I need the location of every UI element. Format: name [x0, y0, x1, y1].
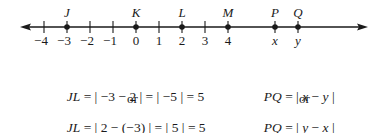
point-p-marker [272, 24, 278, 30]
eq-lhs: JL [67, 89, 81, 104]
point-q-marker [295, 24, 301, 30]
eq-part: − [308, 89, 322, 104]
variable-label: x [271, 33, 278, 48]
equation-pq-1: PQ = | x − y | [257, 76, 335, 103]
or-label-right: or [299, 92, 310, 105]
point-label-l: L [177, 5, 185, 20]
eq-rhs: = | −3 − 2 | = | −5 | = 5 [80, 89, 204, 104]
point-l-marker [179, 24, 185, 30]
point-labels: JKLMPQ [64, 5, 303, 20]
point-label-p: P [270, 5, 279, 20]
eq-rhs: = | 2 − (−3) | = | 5 | = 5 [80, 120, 205, 134]
eq-lhs: PQ [264, 89, 282, 104]
eq-part: = | [282, 120, 302, 134]
tick-label: −1 [103, 33, 117, 48]
tick-labels: −4−3−2−101234xy [34, 33, 301, 48]
point-label-j: J [64, 5, 71, 20]
tick-label: −4 [34, 33, 48, 48]
tick-label: 0 [133, 33, 140, 48]
variable-label: y [293, 33, 301, 48]
eq-part: − [308, 120, 322, 134]
point-label-m: M [222, 5, 235, 20]
tick-label: 3 [202, 33, 209, 48]
equation-pq-2: PQ = | y − x | [257, 107, 335, 133]
tick-label: 2 [179, 33, 186, 48]
point-label-k: K [131, 5, 142, 20]
point-k-marker [133, 24, 139, 30]
equation-jl-2: JL = | 2 − (−3) | = | 5 | = 5 [60, 107, 206, 133]
tick-label: −2 [80, 33, 94, 48]
point-label-q: Q [293, 5, 303, 20]
tick-label: 1 [156, 33, 163, 48]
or-label-left: or [127, 92, 138, 105]
point-m-marker [225, 24, 231, 30]
eq-lhs: PQ [264, 120, 282, 134]
tick-label: 4 [225, 33, 232, 48]
tick-label: −3 [57, 33, 71, 48]
point-j-marker [64, 24, 70, 30]
eq-part: | [329, 89, 335, 104]
eq-lhs: JL [67, 120, 81, 134]
number-line-axis [20, 24, 368, 31]
eq-part: | [329, 120, 335, 134]
